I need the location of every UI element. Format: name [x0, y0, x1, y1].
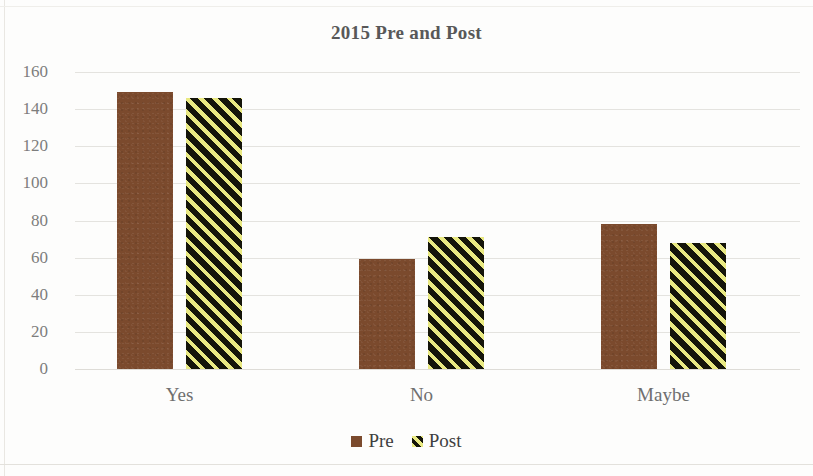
y-axis-tick-label: 60: [0, 249, 48, 266]
gridline-100: [75, 183, 800, 184]
y-axis-tick-label: 20: [0, 323, 48, 340]
gridline-80: [75, 221, 800, 222]
bar-yes-post: [186, 98, 242, 369]
x-axis-label-maybe: Maybe: [594, 384, 734, 406]
y-axis-tick-label: 100: [0, 174, 48, 191]
bar-maybe-pre: [601, 224, 657, 369]
gridline-0: [75, 369, 800, 370]
legend-item-post[interactable]: Post: [412, 430, 462, 452]
chart-legend: PrePost: [0, 430, 813, 452]
gridline-140: [75, 109, 800, 110]
gridline-120: [75, 146, 800, 147]
legend-swatch-post-icon: [412, 436, 423, 447]
legend-swatch-pre-icon: [351, 436, 362, 447]
bar-maybe-post: [670, 243, 726, 369]
page-edge-top: [0, 6, 813, 7]
gridline-160: [75, 72, 800, 73]
bar-yes-pre: [117, 92, 173, 369]
y-axis-tick-label: 120: [0, 137, 48, 154]
legend-label-post: Post: [429, 430, 462, 452]
plot-area: 020406080100120140160: [75, 72, 800, 369]
legend-item-pre[interactable]: Pre: [351, 430, 393, 452]
x-axis-label-no: No: [352, 384, 492, 406]
bar-no-post: [428, 237, 484, 369]
legend-label-pre: Pre: [368, 430, 393, 452]
page-edge-bottom: [0, 464, 813, 465]
x-axis-label-yes: Yes: [110, 384, 250, 406]
chart-container: 2015 Pre and Post 020406080100120140160 …: [0, 0, 813, 476]
bar-no-pre: [359, 259, 415, 369]
y-axis-tick-label: 40: [0, 286, 48, 303]
y-axis-tick-label: 160: [0, 63, 48, 80]
y-axis-tick-label: 0: [0, 360, 48, 377]
chart-title: 2015 Pre and Post: [0, 22, 813, 44]
y-axis-tick-label: 80: [0, 212, 48, 229]
y-axis-tick-label: 140: [0, 100, 48, 117]
